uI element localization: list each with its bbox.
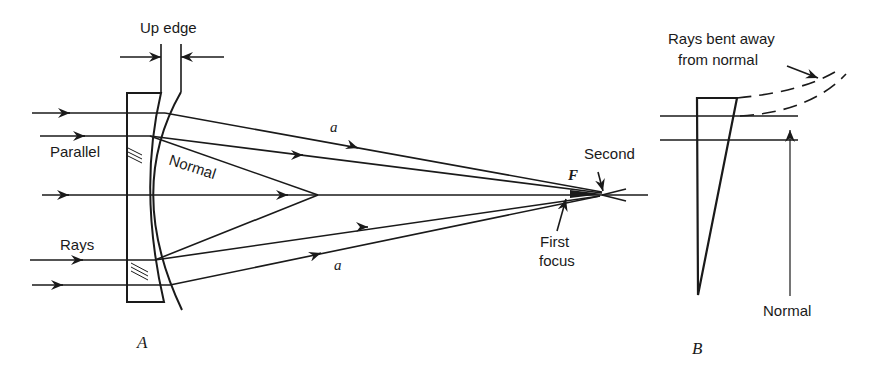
normal-label-b: Normal <box>763 303 811 318</box>
rays-label: Rays <box>60 237 94 252</box>
optics-diagram: Up edge Parallel Rays Normal a a F Secon… <box>0 0 872 366</box>
panel-b-drawing <box>660 66 846 296</box>
second-focus-label: Second <box>584 146 635 161</box>
ray-a-top <box>165 113 602 192</box>
ray-4-out <box>155 196 600 260</box>
bent-ray-2 <box>740 74 846 116</box>
rays-bent-label-line2: from normal <box>678 52 758 67</box>
ray-a-bottom-label: a <box>334 258 342 273</box>
normal-bottom <box>155 195 318 260</box>
first-focus-label-line1: First <box>540 234 569 249</box>
rays-bent-label-line1: Rays bent away <box>668 31 775 46</box>
panel-a-label: A <box>137 334 147 351</box>
parallel-label: Parallel <box>50 144 100 159</box>
panel-b-label: B <box>692 340 702 357</box>
bent-ray-1 <box>737 72 835 98</box>
lens-a-curve <box>153 92 182 310</box>
up-edge-label: Up edge <box>140 20 197 35</box>
first-focus-label-line2: focus <box>539 253 575 268</box>
ray-a-top-label: a <box>330 120 338 135</box>
ray-2-out <box>150 136 602 193</box>
focus-f-label: F <box>568 168 578 183</box>
wedge-b <box>697 98 737 295</box>
ray-a-bottom <box>170 196 600 285</box>
